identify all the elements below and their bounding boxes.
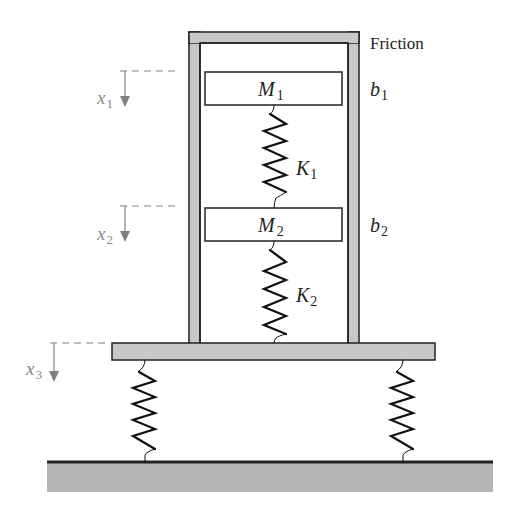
down-arrow-icon xyxy=(120,96,130,107)
mass-m2: M2 xyxy=(205,208,342,241)
b1-label: b1 xyxy=(370,78,388,103)
x3-label: x3 xyxy=(25,358,42,382)
spring-k2: K2 xyxy=(264,241,317,343)
k2-label: K2 xyxy=(295,284,317,309)
mass-m1: M1 xyxy=(205,72,342,105)
down-arrow-icon xyxy=(49,371,59,382)
left-support-spring xyxy=(133,360,155,462)
displacement-x2: x2 xyxy=(96,206,180,247)
right-support-spring xyxy=(391,360,413,462)
displacement-x3: x3 xyxy=(25,343,108,382)
friction-label: Friction xyxy=(370,34,424,53)
platform xyxy=(112,343,435,360)
down-arrow-icon xyxy=(120,231,130,242)
k1-label: K1 xyxy=(295,157,317,182)
mass-spring-diagram: M1 M2 K1 K2 Friction b1 b2 x1 xyxy=(0,0,511,511)
displacement-x1: x1 xyxy=(96,71,180,111)
b2-label: b2 xyxy=(370,214,388,239)
x1-label: x1 xyxy=(96,87,113,111)
spring-k1: K1 xyxy=(264,105,317,208)
ground xyxy=(47,462,493,492)
x2-label: x2 xyxy=(96,223,113,247)
